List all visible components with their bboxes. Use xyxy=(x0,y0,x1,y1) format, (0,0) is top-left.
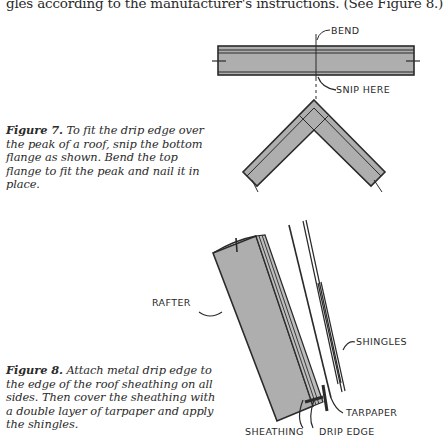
figure-8-caption: Figure 8. Attach metal drip edge to the … xyxy=(6,364,216,432)
snip-here-label: SNIP HERE xyxy=(336,84,390,95)
rafter-label: RAFTER xyxy=(152,297,191,308)
bend-label: BEND xyxy=(331,25,360,36)
figure-7-label: Figure 7. xyxy=(6,123,63,137)
snip-here-leader xyxy=(318,77,336,90)
figure-7-caption: Figure 7. To fit the drip edge over the … xyxy=(6,124,206,192)
drip-edge-label: DRIP EDGE xyxy=(319,426,375,437)
tarpaper-label: TARPAPER xyxy=(345,407,397,418)
shingles-label: SHINGLES xyxy=(356,336,407,347)
figure-8-label: Figure 8. xyxy=(6,363,63,377)
shingles-leader xyxy=(343,342,355,350)
bent-peak-drip-edge xyxy=(243,100,385,192)
rafter-drawing xyxy=(213,235,323,421)
rafter-leader xyxy=(199,312,222,316)
bend-leader xyxy=(317,30,330,40)
sheathing-label: SHEATHING xyxy=(245,426,304,437)
